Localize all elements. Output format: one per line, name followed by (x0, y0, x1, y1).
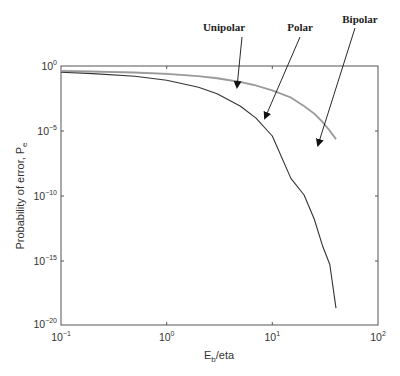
x-tick-label-2: 101 (265, 330, 281, 343)
arrow-bipolar (318, 28, 355, 145)
x-tick-label-1: 100 (159, 330, 175, 343)
arrow-polar (265, 37, 300, 118)
y-tick-label-1: 10−5 (37, 124, 57, 137)
y-tick-labels: 100 10−5 10−10 10−15 10−20 (33, 59, 57, 330)
arrow-unipolar (237, 37, 242, 87)
x-axis-title: Eb/eta (204, 349, 235, 364)
error-probability-chart: 100 10−5 10−10 10−15 10−20 10−1 100 101 … (0, 0, 400, 376)
series-line-polar (61, 72, 336, 308)
series-layer (61, 71, 336, 309)
series-line-unipolar (61, 71, 336, 139)
y-ticks (61, 131, 378, 261)
annotations: Unipolar Polar Bipolar (203, 13, 378, 145)
series-line-bipolar (61, 71, 336, 139)
y-tick-label-3: 10−15 (33, 254, 57, 267)
x-tick-label-3: 102 (370, 330, 386, 343)
y-tick-label-2: 10−10 (33, 189, 57, 202)
annotation-unipolar: Unipolar (203, 21, 245, 33)
annotation-bipolar: Bipolar (342, 13, 378, 25)
y-tick-label-0: 100 (41, 59, 57, 72)
y-tick-label-4: 10−20 (33, 317, 57, 330)
annotation-polar: Polar (287, 21, 313, 33)
x-tick-label-0: 10−1 (51, 330, 71, 343)
y-axis-title: Probability of error, Pe (14, 142, 29, 250)
x-ticks (167, 66, 273, 325)
x-tick-labels: 10−1 100 101 102 (51, 330, 386, 343)
